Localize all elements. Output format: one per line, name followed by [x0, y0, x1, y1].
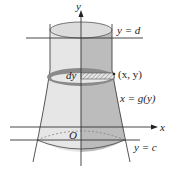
point-xy-marker [113, 73, 116, 76]
label-curve: x = g(y) [119, 92, 156, 105]
y-axis-label: y [75, 0, 81, 12]
origin-label: O [69, 129, 77, 141]
solid-body [33, 22, 130, 162]
label-point: (x, y) [118, 68, 142, 81]
solid-of-revolution-figure: y x O y = d y = c x = g(y) (x, y) dy [0, 0, 169, 172]
hatched-strip [81, 73, 114, 79]
label-y-equals-d: y = d [116, 24, 141, 36]
label-y-equals-c: y = c [133, 141, 157, 153]
label-dy: dy [66, 69, 77, 81]
x-axis-arrow-icon [151, 125, 158, 130]
x-axis-label: x [159, 121, 165, 133]
